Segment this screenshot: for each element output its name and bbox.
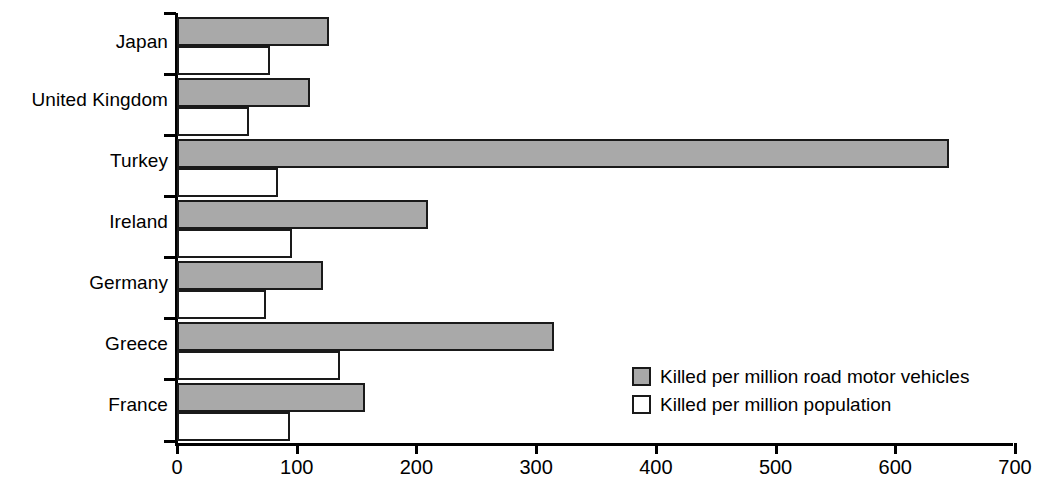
category-label-germany: Germany xyxy=(89,273,168,292)
legend: Killed per million road motor vehicles K… xyxy=(632,363,969,419)
y-axis-tick xyxy=(164,73,176,76)
bar-germany-population xyxy=(177,290,266,319)
x-axis-tick-label: 300 xyxy=(519,456,552,479)
bar-united-kingdom-population xyxy=(177,107,249,136)
x-axis-tick xyxy=(894,443,897,454)
category-label-ireland: Ireland xyxy=(109,212,168,231)
x-axis-tick xyxy=(1014,443,1017,454)
category-label-united-kingdom: United Kingdom xyxy=(31,90,168,109)
bar-germany-vehicles xyxy=(177,261,323,290)
legend-label-vehicles: Killed per million road motor vehicles xyxy=(660,367,969,386)
x-axis-tick xyxy=(415,443,418,454)
y-axis-tick xyxy=(164,134,176,137)
x-axis-tick xyxy=(655,443,658,454)
category-label-greece: Greece xyxy=(105,334,168,353)
legend-entry-population: Killed per million population xyxy=(632,391,969,417)
bar-ireland-population xyxy=(177,229,292,258)
x-axis-tick-label: 400 xyxy=(639,456,672,479)
bar-united-kingdom-vehicles xyxy=(177,78,310,107)
category-label-france: France xyxy=(108,395,168,414)
x-axis-tick xyxy=(535,443,538,454)
y-axis-tick xyxy=(164,12,176,15)
x-axis-tick xyxy=(296,443,299,454)
legend-swatch-white xyxy=(632,395,651,414)
y-axis-tick xyxy=(164,195,176,198)
category-label-japan: Japan xyxy=(116,32,168,51)
bar-greece-vehicles xyxy=(177,322,554,351)
x-axis-tick xyxy=(775,443,778,454)
bar-turkey-vehicles xyxy=(177,139,949,168)
x-axis-tick-label: 100 xyxy=(280,456,313,479)
plot-area: Japan United Kingdom Turkey Ireland Germ… xyxy=(0,0,1043,494)
x-axis-tick xyxy=(176,443,179,454)
x-axis-tick-label: 200 xyxy=(400,456,433,479)
bar-turkey-population xyxy=(177,168,278,197)
legend-label-population: Killed per million population xyxy=(660,395,891,414)
y-axis-tick xyxy=(164,317,176,320)
bar-japan-population xyxy=(177,46,270,75)
bar-japan-vehicles xyxy=(177,17,329,46)
x-axis-tick-label: 700 xyxy=(998,456,1031,479)
bar-ireland-vehicles xyxy=(177,200,428,229)
x-axis-line xyxy=(175,443,1013,446)
legend-swatch-gray xyxy=(632,367,651,386)
legend-entry-vehicles: Killed per million road motor vehicles xyxy=(632,363,969,389)
bar-france-population xyxy=(177,412,290,441)
bar-chart: Japan United Kingdom Turkey Ireland Germ… xyxy=(0,0,1043,494)
y-axis-tick xyxy=(164,378,176,381)
x-axis-tick-label: 600 xyxy=(879,456,912,479)
x-axis-tick-label: 500 xyxy=(759,456,792,479)
y-axis-tick xyxy=(164,256,176,259)
category-label-turkey: Turkey xyxy=(110,151,168,170)
x-axis-tick-label: 0 xyxy=(171,456,182,479)
bar-france-vehicles xyxy=(177,383,365,412)
bar-greece-population xyxy=(177,351,340,380)
